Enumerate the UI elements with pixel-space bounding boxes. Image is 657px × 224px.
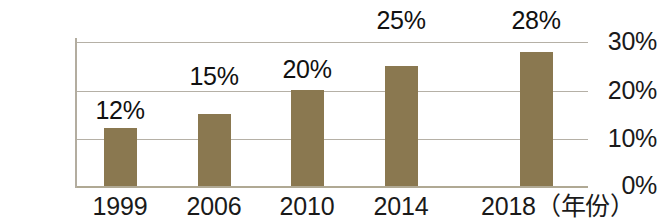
value-label-2014: 25% (356, 8, 446, 33)
y-tick-label-10: 10% (587, 126, 657, 151)
bar-2014 (385, 66, 418, 186)
value-label-2006: 15% (169, 64, 259, 89)
gridline-10 (77, 139, 588, 140)
x-tick-label-2014: 2014 (336, 194, 466, 219)
bar-1999 (104, 128, 137, 186)
gridline-30 (77, 42, 588, 43)
bar-chart: 30% 20% 10% 0% 12% 15% 20% 25% 28% 1999 … (0, 0, 657, 224)
y-tick-label-30: 30% (587, 29, 657, 54)
y-tick-label-20: 20% (587, 78, 657, 103)
x-tick-label-2018-with-unit: 2018（年份） (481, 194, 657, 219)
value-label-2010: 20% (262, 57, 352, 82)
bar-2006 (198, 114, 231, 186)
value-label-1999: 12% (75, 98, 165, 123)
gridline-0-baseline (77, 186, 588, 188)
gridline-20 (77, 91, 588, 92)
bar-2010 (291, 90, 324, 186)
bar-2018 (520, 52, 553, 186)
value-label-2018: 28% (491, 8, 581, 33)
